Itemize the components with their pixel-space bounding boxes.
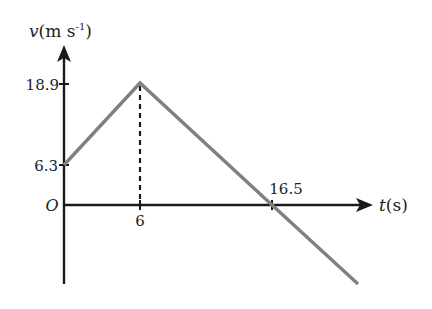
x-axis-label: t(s) [379,195,408,215]
velocity-time-graph: 18.9 6.3 6 16.5 O t(s) v(m s-1) [0,0,432,309]
y-axis-unit-sup: -1 [76,21,86,32]
y-tick-label-6.3: 6.3 [34,157,58,175]
y-tick-label-18.9: 18.9 [26,76,59,94]
origin-label: O [45,196,58,215]
x-tick-label-16.5: 16.5 [269,180,302,198]
y-axis-label: v(m s-1) [29,21,92,41]
y-axis-unit: (m s [39,21,76,41]
x-tick-label-6: 6 [135,212,145,230]
x-axis-unit: (s) [386,195,408,215]
velocity-line [64,83,358,284]
y-axis-unit-close: ) [85,21,92,41]
y-axis-var: v [29,21,39,41]
